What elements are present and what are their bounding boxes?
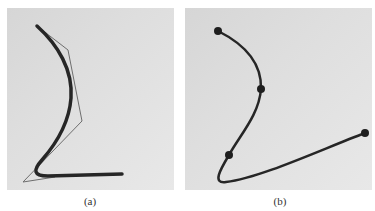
interpolating-curve-b	[218, 31, 365, 182]
figure-overlay	[0, 0, 375, 211]
control-polygon-a	[23, 26, 82, 182]
caption-b: (b)	[265, 195, 295, 207]
bspline-curve-a	[36, 26, 122, 176]
data-point-3	[225, 151, 233, 159]
caption-a: (a)	[75, 195, 105, 207]
data-point-1	[214, 27, 222, 35]
data-point-2	[257, 85, 265, 93]
data-point-4	[361, 129, 369, 137]
